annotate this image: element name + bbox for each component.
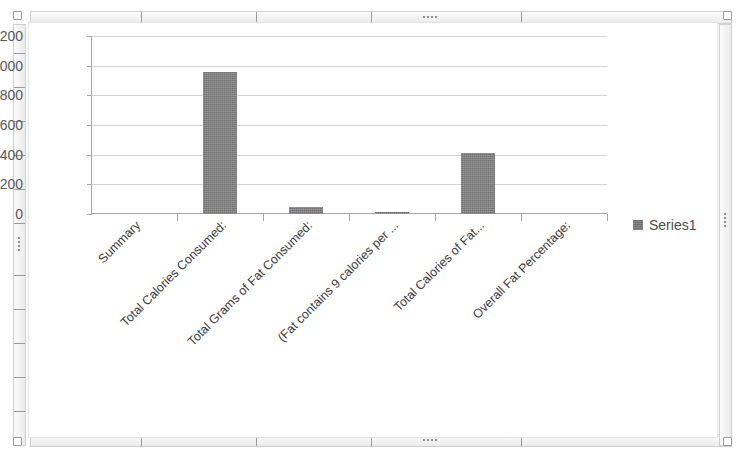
chart-canvas[interactable]: 020040060080010001200 SummaryTotal Calor… — [28, 22, 718, 438]
gridline — [91, 36, 607, 37]
gridline — [91, 66, 607, 67]
y-axis-tick-label: 1200 — [0, 29, 23, 43]
y-axis-tick-mark — [87, 214, 92, 215]
resize-handle-bottom-right[interactable] — [723, 437, 732, 446]
y-axis-tick-label: 600 — [0, 118, 23, 132]
y-axis-tick-mark — [87, 66, 92, 67]
gridline — [91, 125, 607, 126]
y-axis-tick-label: 1000 — [0, 59, 23, 73]
bar[interactable] — [375, 212, 409, 214]
y-axis-tick-mark — [87, 125, 92, 126]
gridline — [91, 95, 607, 96]
resize-handle-top-left[interactable] — [13, 11, 22, 20]
y-axis-tick-mark — [87, 184, 92, 185]
chart-legend[interactable]: Series1 — [633, 218, 696, 232]
y-axis-tick-mark — [87, 95, 92, 96]
y-axis-tick-label: 200 — [0, 177, 23, 191]
y-axis-tick-label: 0 — [0, 207, 23, 221]
x-axis-category-labels: SummaryTotal Calories Consumed:Total Gra… — [91, 219, 651, 389]
legend-entry-label: Series1 — [649, 218, 696, 232]
vertical-ruler-right[interactable] — [719, 24, 732, 446]
bar[interactable] — [289, 207, 323, 214]
plot-area[interactable]: 020040060080010001200 — [91, 36, 607, 214]
y-axis-tick-mark — [87, 155, 92, 156]
y-axis-tick-mark — [87, 36, 92, 37]
y-axis-tick-label: 800 — [0, 88, 23, 102]
bar[interactable] — [461, 153, 495, 214]
gridline — [91, 184, 607, 185]
resize-handle-top-right[interactable] — [723, 11, 732, 20]
y-axis-tick-label: 400 — [0, 148, 23, 162]
legend-swatch-icon — [633, 220, 643, 230]
gridline — [91, 155, 607, 156]
bar[interactable] — [203, 72, 237, 214]
chart-object-frame[interactable]: 020040060080010001200 SummaryTotal Calor… — [0, 0, 744, 469]
